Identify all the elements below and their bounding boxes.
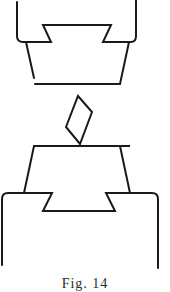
lower-block bbox=[2, 146, 158, 268]
upper-block bbox=[17, 0, 136, 84]
lower-socket-frame bbox=[2, 193, 158, 268]
upper-tenon-trapezoid bbox=[26, 42, 129, 84]
lower-top-trapezoid bbox=[24, 146, 130, 193]
upper-outer-frame bbox=[17, 0, 136, 42]
figure-caption: Fig. 14 bbox=[0, 276, 170, 292]
diamond-key bbox=[66, 96, 92, 144]
